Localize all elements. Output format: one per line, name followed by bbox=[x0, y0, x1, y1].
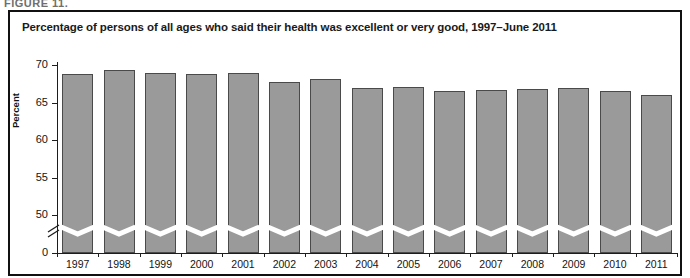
bar-1997 bbox=[62, 74, 93, 253]
x-axis-line bbox=[57, 253, 677, 254]
y-tick-label: 70 bbox=[36, 58, 48, 70]
x-tick bbox=[512, 253, 513, 257]
x-tick bbox=[98, 253, 99, 257]
bar-series bbox=[57, 58, 677, 253]
bar-slot bbox=[476, 90, 507, 253]
y-tick-label: 50 bbox=[36, 208, 48, 220]
bar-1998 bbox=[104, 70, 135, 254]
axis-break-icon bbox=[46, 222, 62, 240]
bar-2005 bbox=[393, 87, 424, 253]
bar-slot bbox=[641, 95, 672, 253]
x-tick bbox=[677, 253, 678, 257]
bar-2000 bbox=[186, 74, 217, 253]
bar-slot bbox=[600, 91, 631, 253]
y-tick-label: 0 bbox=[42, 246, 48, 258]
figure-root: FIGURE 11. Percentage of persons of all … bbox=[0, 0, 690, 278]
x-tick bbox=[140, 253, 141, 257]
bar-slot bbox=[393, 87, 424, 253]
bar-2008 bbox=[517, 89, 548, 253]
x-tick bbox=[429, 253, 430, 257]
x-tick bbox=[222, 253, 223, 257]
bar-2004 bbox=[352, 88, 383, 254]
bar-slot bbox=[104, 70, 135, 254]
x-tick bbox=[346, 253, 347, 257]
x-tick bbox=[57, 253, 58, 257]
bar-2009 bbox=[558, 88, 589, 253]
bar-slot bbox=[517, 89, 548, 253]
y-tick-label: 65 bbox=[36, 96, 48, 108]
bar-1999 bbox=[145, 73, 176, 254]
y-axis-title: Percent bbox=[10, 93, 21, 128]
bar-2011 bbox=[641, 95, 672, 253]
chart-title: Percentage of persons of all ages who sa… bbox=[22, 20, 662, 34]
bar-slot bbox=[145, 73, 176, 254]
bar-2003 bbox=[310, 79, 341, 253]
bar-slot bbox=[62, 74, 93, 253]
bar-slot bbox=[310, 79, 341, 253]
bar-slot bbox=[269, 82, 300, 254]
x-tick-label-2011: 2011 bbox=[626, 258, 686, 270]
bar-slot bbox=[352, 88, 383, 254]
x-tick bbox=[181, 253, 182, 257]
bar-slot bbox=[558, 88, 589, 253]
bar-2001 bbox=[228, 73, 259, 253]
x-tick bbox=[553, 253, 554, 257]
x-tick bbox=[594, 253, 595, 257]
bar-2002 bbox=[269, 82, 300, 254]
x-tick bbox=[636, 253, 637, 257]
bar-slot bbox=[228, 73, 259, 253]
y-tick-label: 55 bbox=[36, 171, 48, 183]
x-tick bbox=[264, 253, 265, 257]
bar-slot bbox=[434, 91, 465, 253]
bar-slot bbox=[186, 74, 217, 253]
y-tick-label: 60 bbox=[36, 133, 48, 145]
figure-number-stub: FIGURE 11. bbox=[4, 0, 124, 9]
bar-2006 bbox=[434, 91, 465, 253]
bar-2010 bbox=[600, 91, 631, 253]
x-tick bbox=[388, 253, 389, 257]
bar-2007 bbox=[476, 90, 507, 253]
x-tick bbox=[305, 253, 306, 257]
x-tick bbox=[470, 253, 471, 257]
